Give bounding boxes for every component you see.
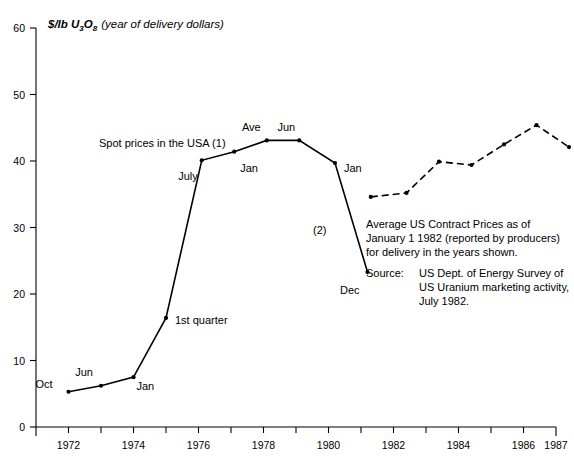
data-point (369, 195, 373, 199)
x-tick-label-1974: 1974 (122, 439, 146, 451)
x-tick-label-1976: 1976 (187, 439, 211, 451)
data-point (333, 161, 337, 165)
x-tick-label-1982: 1982 (382, 439, 406, 451)
series-line-1 (371, 125, 569, 197)
note-source-line-1: US Dept. of Energy Survey of (419, 267, 564, 279)
note-source-label: Source: (366, 267, 404, 279)
x-tick-label-1980: 1980 (317, 439, 341, 451)
series-group (66, 123, 571, 394)
y-tick-label-40: 40 (13, 155, 25, 167)
y-axis-ticks: 0102030405060 (13, 22, 36, 433)
note-source-line-3: July 1982. (419, 295, 469, 307)
y-tick-label-0: 0 (19, 421, 25, 433)
series-label-spot-prices: Spot prices in the USA (1) (99, 137, 226, 149)
data-point-label: Jun (278, 121, 296, 133)
data-point (502, 142, 506, 146)
y-axis-title-mid: O (84, 18, 93, 30)
y-tick-label-20: 20 (13, 288, 25, 300)
data-point (469, 163, 473, 167)
data-point-label: Dec (340, 284, 360, 296)
data-point-label: Jan (240, 162, 258, 174)
data-point (99, 384, 103, 388)
y-tick-label-60: 60 (13, 22, 25, 34)
x-tick-label-1972: 1972 (57, 439, 81, 451)
data-point (232, 150, 236, 154)
y-tick-label-10: 10 (13, 355, 25, 367)
y-tick-label-30: 30 (13, 222, 25, 234)
data-point (131, 375, 135, 379)
data-point (200, 158, 204, 162)
data-point (437, 160, 441, 164)
data-point-label: Oct (35, 378, 52, 390)
data-point-label: Jun (75, 366, 93, 378)
x-tick-label-1978: 1978 (252, 439, 276, 451)
note-contract-prices-line-2: January 1 1982 (reported by producers) (366, 232, 560, 244)
point-labels-group: OctJunJan1st quarterJulyJanAveJunJanDec (35, 121, 361, 392)
y-axis-title-tail: (year of delivery dollars) (101, 18, 224, 30)
y-axis-title: $/lb U3O8(year of delivery dollars) (47, 18, 224, 33)
x-tick-label-1986: 1986 (512, 439, 536, 451)
data-point (567, 145, 571, 149)
data-point-label: Jan (137, 380, 155, 392)
series-line-0 (69, 140, 368, 391)
data-point (66, 390, 70, 394)
data-point (297, 138, 301, 142)
y-tick-label-50: 50 (13, 89, 25, 101)
data-point-label: Jan (344, 162, 362, 174)
data-point (534, 123, 538, 127)
note-source-line-2: US Uranium marketing activity, (419, 281, 569, 293)
uranium-price-chart: 0102030405060 19721974197619781980198219… (0, 0, 574, 460)
data-point (265, 138, 269, 142)
data-point-label: July (178, 170, 198, 182)
data-point (164, 316, 168, 320)
y-axis-title-main: $/lb U (47, 18, 80, 30)
chart-canvas: 0102030405060 19721974197619781980198219… (0, 0, 574, 460)
x-tick-label-1984: 1984 (447, 439, 471, 451)
x-tick-label-1987: 1987 (544, 439, 568, 451)
data-point-label: Ave (242, 121, 261, 133)
note-source: Source: US Dept. of Energy Survey of US … (366, 267, 569, 307)
note-contract-prices-line-3: for delivery in the years shown. (366, 246, 518, 258)
note-contract-prices-line-1: Average US Contract Prices as of (366, 218, 531, 230)
series-label-contract-prices: (2) (313, 224, 326, 236)
x-axis-ticks: 197219741976197819801982198419861987 (36, 427, 568, 451)
data-point-label: 1st quarter (175, 314, 228, 326)
y-axis-title-sub2: 8 (93, 24, 98, 33)
data-point (404, 191, 408, 195)
note-contract-prices: Average US Contract Prices as of January… (366, 218, 560, 258)
